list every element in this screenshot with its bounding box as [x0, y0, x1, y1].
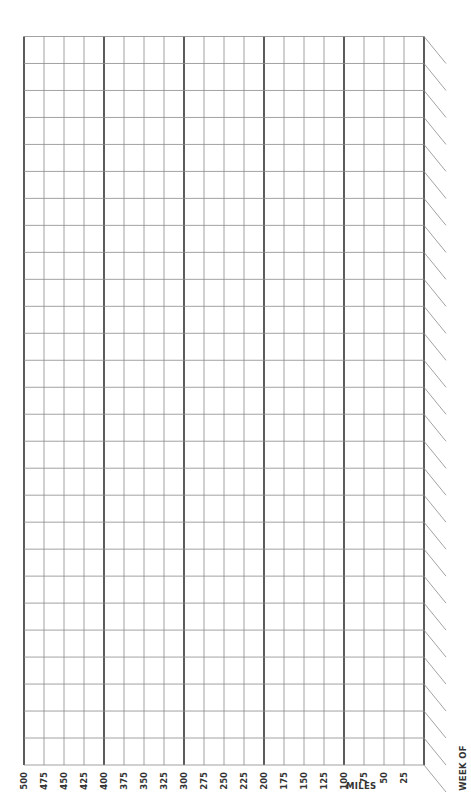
miles-axis-label: MILES	[346, 781, 376, 791]
miles-tick-label: 275	[199, 772, 209, 796]
week-of-axis-label: WEEK OF	[458, 743, 468, 793]
mileage-log-grid	[0, 0, 471, 807]
week-label-diagonal	[424, 306, 446, 333]
miles-tick-label: 200	[259, 772, 269, 796]
week-label-diagonal	[424, 765, 446, 792]
week-label-diagonal	[424, 360, 446, 387]
miles-tick-label: 475	[39, 772, 49, 796]
miles-tick-label: 375	[119, 772, 129, 796]
week-label-diagonal	[424, 441, 446, 468]
week-label-diagonal	[424, 603, 446, 630]
miles-tick-label: 325	[159, 772, 169, 796]
week-entry-diagonals	[424, 37, 446, 793]
miles-tick-label: 125	[319, 772, 329, 796]
week-label-diagonal	[424, 63, 446, 90]
miles-tick-label: 25	[399, 772, 409, 796]
week-label-diagonal	[424, 522, 446, 549]
week-label-diagonal	[424, 171, 446, 198]
miles-tick-label: 425	[79, 772, 89, 796]
vertical-grid-lines	[24, 37, 424, 766]
miles-tick-label: 400	[99, 772, 109, 796]
miles-tick-label: 150	[299, 772, 309, 796]
miles-tick-label: 350	[139, 772, 149, 796]
week-label-diagonal	[424, 657, 446, 684]
miles-tick-label: 175	[279, 772, 289, 796]
week-label-diagonal	[424, 387, 446, 414]
week-label-diagonal	[424, 549, 446, 576]
week-label-diagonal	[424, 117, 446, 144]
week-label-diagonal	[424, 279, 446, 306]
week-label-diagonal	[424, 198, 446, 225]
miles-tick-label: 50	[379, 772, 389, 796]
week-label-diagonal	[424, 37, 446, 64]
week-label-diagonal	[424, 225, 446, 252]
week-label-diagonal	[424, 414, 446, 441]
miles-tick-label: 300	[179, 772, 189, 796]
week-label-diagonal	[424, 144, 446, 171]
week-label-diagonal	[424, 576, 446, 603]
miles-tick-label: 500	[19, 772, 29, 796]
week-label-diagonal	[424, 684, 446, 711]
week-label-diagonal	[424, 495, 446, 522]
miles-tick-label: 225	[239, 772, 249, 796]
miles-tick-label: 250	[219, 772, 229, 796]
week-label-diagonal	[424, 468, 446, 495]
miles-tick-label: 450	[59, 772, 69, 796]
week-label-diagonal	[424, 738, 446, 765]
week-label-diagonal	[424, 333, 446, 360]
week-label-diagonal	[424, 252, 446, 279]
week-label-diagonal	[424, 711, 446, 738]
week-label-diagonal	[424, 630, 446, 657]
week-label-diagonal	[424, 90, 446, 117]
